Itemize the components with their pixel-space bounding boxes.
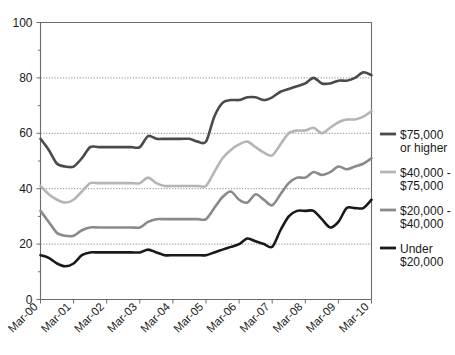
line-chart: 020406080100 Mar-00Mar-01Mar-02Mar-03Mar… <box>0 0 455 355</box>
y-tick-label: 100 <box>12 16 32 30</box>
x-tick-label-group: Mar-07 <box>237 300 271 334</box>
axes <box>41 23 372 300</box>
x-tick-label: Mar-09 <box>304 300 338 334</box>
legend-label-line1: $40,000 - <box>400 166 451 180</box>
y-tick-label: 20 <box>19 237 33 251</box>
data-series-group <box>41 72 372 266</box>
x-tick-label-group: Mar-05 <box>171 300 205 334</box>
legend-label-line1: $20,000 - <box>400 204 451 218</box>
x-tick-label-group: Mar-08 <box>270 300 304 334</box>
legend-label-line1: Under <box>400 242 433 256</box>
plot-frame <box>41 23 372 300</box>
series-line-3 <box>41 200 372 266</box>
x-tick-label-group: Mar-00 <box>6 300 40 334</box>
chart-canvas: 020406080100 Mar-00Mar-01Mar-02Mar-03Mar… <box>0 0 455 355</box>
x-axis-tick-labels: Mar-00Mar-01Mar-02Mar-03Mar-04Mar-05Mar-… <box>6 300 371 335</box>
y-axis-ticks <box>37 23 41 300</box>
series-line-2 <box>41 158 372 236</box>
chart-legend: $75,000or higher$40,000 -$75,000$20,000 … <box>380 128 451 269</box>
x-tick-label: Mar-01 <box>39 300 73 334</box>
x-tick-label-group: Mar-04 <box>138 300 173 335</box>
x-axis-ticks <box>41 300 372 304</box>
legend-label-line2: $20,000 <box>400 255 444 269</box>
legend-label-line2: $40,000 <box>400 217 444 231</box>
x-tick-label: Mar-08 <box>270 300 304 334</box>
y-tick-label: 40 <box>19 182 33 196</box>
x-tick-label-group: Mar-03 <box>105 300 139 334</box>
x-tick-label: Mar-03 <box>105 300 139 334</box>
x-tick-label: Mar-02 <box>72 300 106 334</box>
y-axis-tick-labels: 020406080100 <box>12 16 32 307</box>
x-tick-label-group: Mar-02 <box>72 300 106 334</box>
x-tick-label: Mar-06 <box>204 300 238 334</box>
x-tick-label-group: Mar-01 <box>39 300 73 334</box>
x-tick-label-group: Mar-09 <box>304 300 338 334</box>
x-tick-label: Mar-10 <box>337 300 371 334</box>
legend-label-line2: $75,000 <box>400 179 444 193</box>
y-tick-label: 80 <box>19 71 33 85</box>
x-tick-label-group: Mar-10 <box>337 300 371 334</box>
x-tick-label: Mar-00 <box>6 300 40 334</box>
series-line-0 <box>41 72 372 167</box>
x-tick-label: Mar-04 <box>138 300 173 335</box>
y-tick-label: 60 <box>19 126 33 140</box>
x-tick-label: Mar-05 <box>171 300 205 334</box>
legend-label-line1: $75,000 <box>400 128 444 142</box>
legend-label-line2: or higher <box>400 141 447 155</box>
x-tick-label: Mar-07 <box>237 300 271 334</box>
x-tick-label-group: Mar-06 <box>204 300 238 334</box>
